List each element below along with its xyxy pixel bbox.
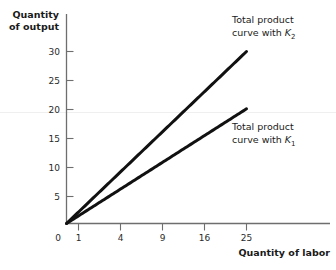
y-axis-title-line2: of output: [9, 21, 59, 32]
curve-label-k1: Total product curve with K1: [231, 121, 296, 148]
y-tick-label-5: 5: [54, 192, 60, 202]
curve-k1-label-subscript: 1: [291, 140, 295, 148]
curve-label-k2: Total product curve with K2: [231, 14, 296, 41]
x-tick-label-25: 25: [241, 233, 252, 243]
curve-k1-label-prefix: curve with: [232, 134, 285, 145]
x-tick-label-16: 16: [199, 233, 211, 243]
curve-k2-label-subscript: 2: [291, 33, 295, 41]
y-tick-label-10: 10: [49, 163, 61, 173]
y-tick-label-25: 25: [49, 76, 60, 86]
curve-k2-label-prefix: curve with: [232, 27, 285, 38]
y-tick-label-30: 30: [49, 47, 61, 57]
x-tick-label-4: 4: [118, 233, 124, 243]
chart-figure: 30 25 20 15 10 5 Quantity of output 0 1 …: [0, 0, 336, 270]
x-tick-label-0: 0: [55, 233, 61, 243]
x-axis-title: Quantity of labor: [239, 247, 331, 258]
curve-k2-label-line1: Total product: [231, 14, 294, 25]
y-axis-title-line1: Quantity: [12, 9, 59, 20]
total-product-curves-chart: 30 25 20 15 10 5 Quantity of output 0 1 …: [0, 0, 336, 270]
x-tick-label-9: 9: [160, 233, 166, 243]
curve-k1-label-line1: Total product: [231, 121, 294, 132]
x-tick-label-1: 1: [76, 233, 82, 243]
y-tick-label-15: 15: [49, 134, 60, 144]
y-tick-label-20: 20: [49, 105, 61, 115]
